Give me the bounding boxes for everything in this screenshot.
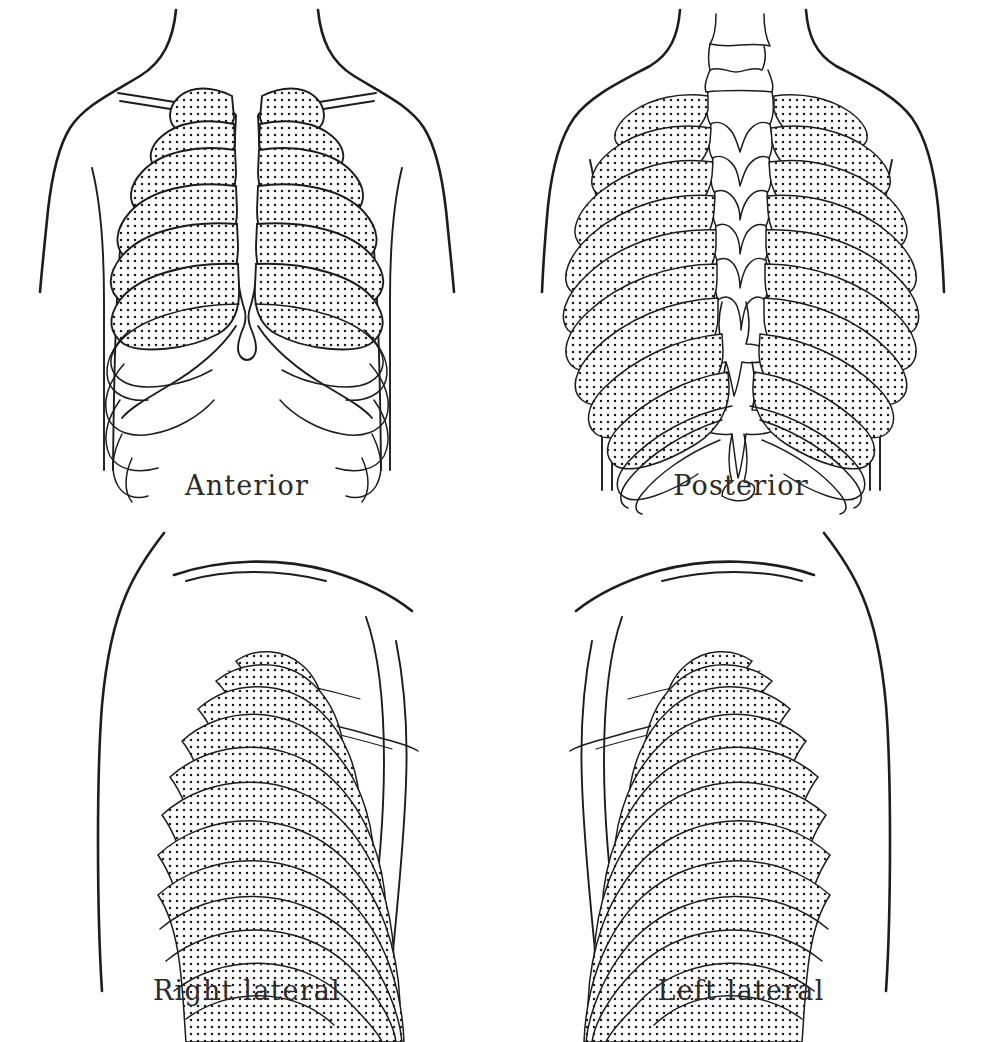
label-posterior: Posterior: [494, 470, 988, 501]
body-outline-anterior: [40, 10, 454, 470]
ribs-anterior-left-shaded: [255, 89, 383, 350]
figure-sheet: Anterior: [0, 0, 988, 1042]
label-left-lateral: Left lateral: [494, 975, 988, 1006]
panel-right-lateral-view: [0, 521, 494, 1042]
clavicle-anterior: [118, 93, 376, 118]
panel-anterior-view: [0, 0, 494, 521]
panel-posterior-view: [494, 0, 988, 521]
panel-left-lateral-view: [494, 521, 988, 1042]
label-right-lateral: Right lateral: [0, 975, 494, 1006]
ribs-anterior-right-shaded: [111, 89, 239, 350]
label-anterior: Anterior: [0, 470, 494, 501]
